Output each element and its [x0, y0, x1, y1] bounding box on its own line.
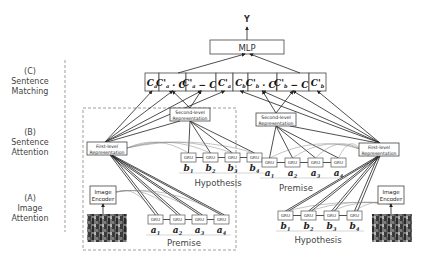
gru-cell: GRUa4 — [331, 158, 346, 179]
edge — [178, 54, 245, 73]
edge — [276, 126, 293, 158]
section-a-label: (A) Image Attention — [12, 194, 49, 223]
image-encoder-line2: Encoder — [92, 196, 115, 202]
representation-line1: First-level — [368, 145, 390, 150]
gru-label: GRU — [250, 155, 259, 160]
representation-line1: Second-level — [261, 115, 291, 120]
mlp-label: MLP — [238, 43, 255, 53]
sequence-caption: Hypothesis — [294, 235, 342, 245]
gru-label: GRU — [265, 160, 274, 165]
token-label: b1 — [281, 221, 291, 232]
gru-label: GRU — [195, 217, 204, 222]
section-b-label: (B) Sentence Attention — [11, 128, 49, 157]
attention-curve — [116, 190, 156, 215]
edge — [110, 155, 156, 215]
second-level-representation: Second-levelRepresentation — [256, 113, 296, 126]
token-label: b1 — [184, 163, 194, 174]
gru-label: GRU — [206, 155, 215, 160]
gru-sequence: GRUa1GRUa2GRUa3GRUa4Premise — [146, 215, 231, 248]
edge — [290, 126, 378, 143]
second-level-representation: Second-levelRepresentation — [170, 108, 210, 121]
image-encoder: ImageEncoder — [372, 186, 412, 242]
edge — [105, 91, 173, 142]
token-label: a4 — [334, 168, 344, 179]
edge — [276, 126, 316, 158]
gru-label: GRU — [327, 213, 336, 218]
gru-cell: GRUb4 — [247, 153, 262, 174]
edge — [190, 121, 255, 153]
token-label: b2 — [206, 163, 216, 174]
section-a-line2: Attention — [12, 214, 49, 223]
gru-label: GRU — [334, 160, 343, 165]
image-encoder: ImageEncoder — [87, 186, 127, 242]
attention-curve — [116, 190, 200, 215]
attention-curve — [293, 144, 361, 158]
token-label: b4 — [350, 221, 360, 232]
representation-line1: First-level — [96, 144, 118, 149]
section-a-letter: (A) — [24, 194, 36, 203]
gru-cell: GRUa1 — [262, 158, 277, 179]
representation-line2: Representation — [362, 151, 397, 156]
gru-label: GRU — [304, 213, 313, 218]
section-c-label: (C) Sentence Matching — [11, 67, 49, 96]
feature-cell: C'a — [216, 73, 233, 91]
image-encoder-line2: Encoder — [380, 196, 403, 202]
token-label: b2 — [304, 221, 314, 232]
section-b-letter: (B) — [24, 128, 36, 137]
feature-cell: C'b — [309, 73, 326, 91]
gru-sequence: GRUa1GRUa2GRUa3GRUa4Premise — [260, 158, 348, 193]
token-label: b3 — [327, 221, 337, 232]
gru-cell: GRUb1 — [278, 211, 293, 232]
token-label: a1 — [151, 225, 160, 236]
image-encoder-line1: Image — [94, 189, 112, 196]
section-c-line2: Matching — [12, 87, 49, 96]
gru-label: GRU — [184, 155, 193, 160]
gru-label: GRU — [281, 213, 290, 218]
mlp-block: MLP — [210, 40, 284, 54]
edge — [250, 54, 300, 73]
representation-line2: Representation — [90, 150, 125, 155]
gru-cell: GRUb3 — [225, 153, 240, 174]
representation-line1: Second-level — [175, 110, 205, 115]
gru-sequence: GRUb1GRUb2GRUb3GRUb4Hypothesis — [276, 211, 364, 245]
gru-cell: GRUb2 — [203, 153, 218, 174]
section-b-line1: Sentence — [11, 138, 49, 147]
gru-label: GRU — [350, 213, 359, 218]
token-label: a1 — [265, 168, 274, 179]
edge — [112, 155, 159, 215]
gru-cell: GRUa3 — [308, 158, 323, 179]
token-label: a2 — [288, 168, 298, 179]
gru-cell: GRUb4 — [347, 211, 362, 232]
sequence-caption: Premise — [167, 238, 201, 248]
feature-cell: C'a − Ca — [182, 73, 219, 91]
attention-curve — [339, 144, 361, 158]
gru-sequence: GRUb1GRUb2GRUb3GRUb4Hypothesis — [179, 153, 264, 188]
gru-cell: GRUb3 — [324, 211, 339, 232]
token-label: a3 — [195, 225, 205, 236]
first-level-representation: First-levelRepresentation — [87, 142, 127, 155]
input-image — [372, 214, 412, 242]
edge — [105, 91, 152, 142]
gru-label: GRU — [217, 217, 226, 222]
gru-cell: GRUa1 — [148, 215, 163, 236]
gru-cell: GRUa2 — [170, 215, 185, 236]
token-label: a3 — [311, 168, 321, 179]
section-b-line2: Attention — [12, 148, 49, 157]
attention-curve — [127, 142, 189, 153]
token-label: b3 — [228, 163, 238, 174]
edge — [190, 121, 233, 153]
representation-line2: Representation — [259, 121, 294, 126]
gru-label: GRU — [311, 160, 320, 165]
sequence-caption: Premise — [279, 183, 313, 193]
output-label: Y — [243, 15, 250, 24]
gru-cell: GRUb1 — [181, 153, 196, 174]
edge — [173, 91, 191, 108]
first-level-representation: First-levelRepresentation — [359, 143, 399, 156]
edge — [276, 126, 339, 158]
token-label: a4 — [217, 225, 227, 236]
gru-label: GRU — [151, 217, 160, 222]
image-encoder-line1: Image — [382, 189, 400, 196]
edge — [112, 155, 181, 215]
gru-cell: GRUa4 — [214, 215, 229, 236]
section-a-line1: Image — [17, 204, 42, 213]
